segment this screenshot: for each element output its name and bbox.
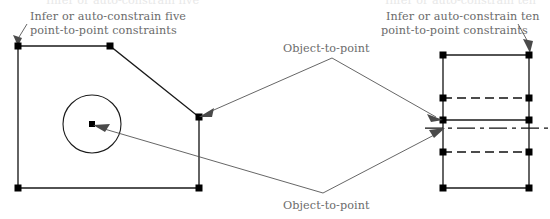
vertex-handle[interactable] <box>526 185 533 192</box>
upper-object-to-point-label: Object-to-point <box>283 42 370 55</box>
circle-center-handle[interactable] <box>89 121 95 127</box>
vertex-handle[interactable] <box>15 43 22 50</box>
lower-object-to-point-group: Object-to-point <box>93 124 445 212</box>
lower-leader-left-arm <box>101 128 323 193</box>
vertex-handle[interactable] <box>196 185 203 192</box>
vertex-handle[interactable] <box>440 52 447 59</box>
clipped-text-right: Infer or auto-constrain ten <box>385 0 536 7</box>
vertex-handle[interactable] <box>526 95 533 102</box>
vertex-handle[interactable] <box>440 185 447 192</box>
vertex-handle[interactable] <box>526 52 533 59</box>
diagram-canvas: Infer or auto-constrain five Infer or au… <box>0 0 550 219</box>
vertex-handle[interactable] <box>440 149 447 156</box>
right-callout-line1: Infer or auto-constrain ten <box>386 10 540 23</box>
right-callout-arrowhead <box>523 39 533 53</box>
vertex-handle[interactable] <box>440 95 447 102</box>
vertex-handle[interactable] <box>526 117 533 124</box>
lower-leader-left-arrowhead <box>93 124 110 132</box>
right-callout-group: Infer or auto-constrain ten point-to-poi… <box>381 10 540 53</box>
constraint-diagram: Infer or auto-constrain five Infer or au… <box>0 0 550 219</box>
vertex-handle[interactable] <box>107 43 114 50</box>
pentagon-outline[interactable] <box>18 46 199 188</box>
left-callout-group: Infer or auto-constrain five point-to-po… <box>13 10 186 46</box>
right-rectangle-shape[interactable] <box>425 52 549 192</box>
upper-object-to-point-group: Object-to-point <box>199 42 443 122</box>
upper-leader-right-arm <box>332 58 436 117</box>
upper-leader-left-arm <box>207 58 332 113</box>
vertex-handle[interactable] <box>526 149 533 156</box>
clipped-top-text-row: Infer or auto-constrain five Infer or au… <box>46 0 536 7</box>
left-polygon-shape[interactable] <box>15 43 203 192</box>
vertex-handle[interactable] <box>15 185 22 192</box>
left-callout-line1: Infer or auto-constrain five <box>30 10 186 23</box>
lower-leader-right-arm <box>323 133 438 193</box>
lower-object-to-point-label: Object-to-point <box>283 199 370 212</box>
clipped-text-left: Infer or auto-constrain five <box>46 0 199 7</box>
left-circle-shape[interactable] <box>63 95 121 153</box>
upper-leader-left-arrowhead <box>199 108 214 117</box>
left-callout-line2: point-to-point constraints <box>30 24 177 37</box>
right-callout-line2: point-to-point constraints <box>381 24 528 37</box>
